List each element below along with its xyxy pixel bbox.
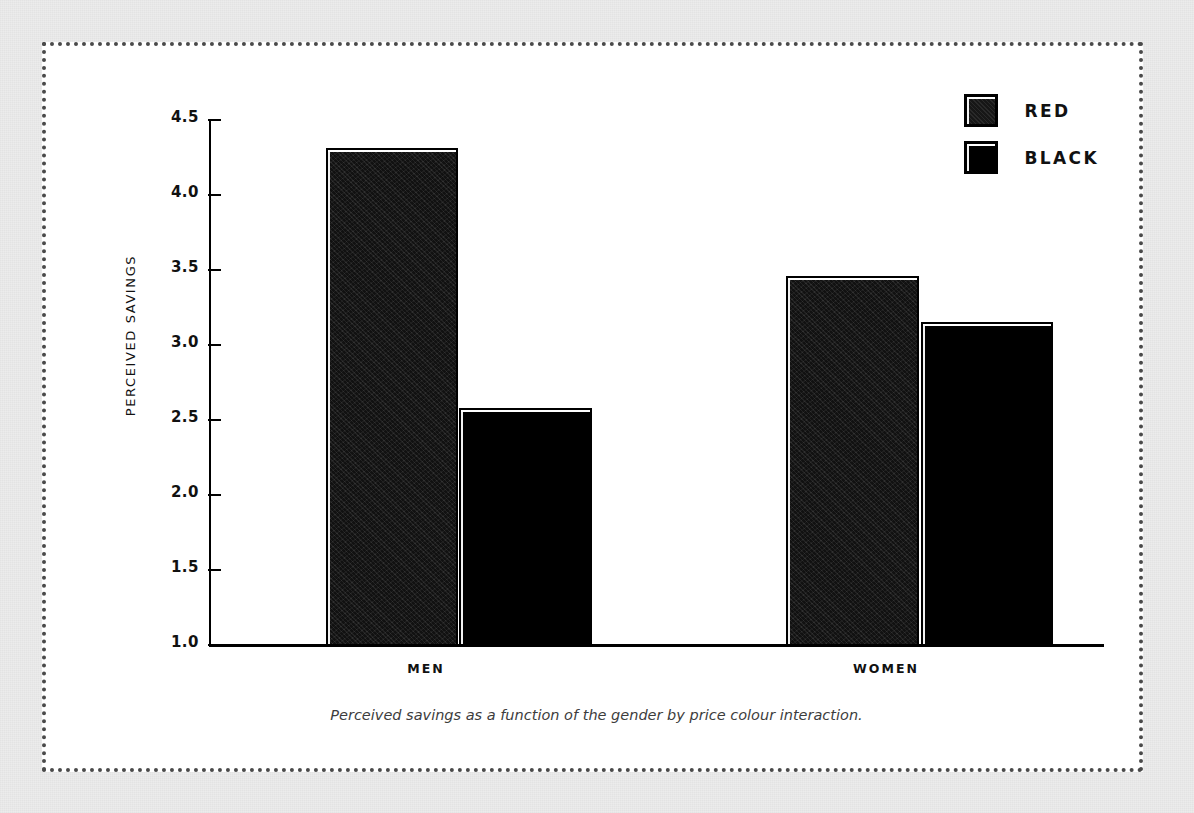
legend-label-red: RED xyxy=(1024,101,1070,121)
y-tick-label: 1.5 xyxy=(171,558,199,576)
legend-swatch-red-icon xyxy=(964,94,998,127)
bar-women-black[interactable] xyxy=(921,322,1053,646)
y-tick-label: 3.5 xyxy=(171,258,199,276)
y-tick-3-5: 3.5 xyxy=(46,269,221,271)
y-tick-1-0: 1.0 xyxy=(46,644,221,646)
y-tick-label: 1.0 xyxy=(171,633,199,651)
legend: RED BLACK xyxy=(964,94,1099,174)
bar-chart: PERCEIVED SAVINGS 4.5 4.0 3.5 3.0 2.5 2.… xyxy=(46,46,1147,776)
y-tick-1-5: 1.5 xyxy=(46,569,221,571)
x-tick-label-women: WOMEN xyxy=(786,661,986,676)
y-tick-label: 2.5 xyxy=(171,408,199,426)
y-tick-2-5: 2.5 xyxy=(46,419,221,421)
bar-men-black[interactable] xyxy=(459,408,592,646)
legend-entry-red[interactable]: RED xyxy=(964,94,1099,127)
y-tick-label: 4.5 xyxy=(171,108,199,126)
y-tick-4-0: 4.0 xyxy=(46,194,221,196)
y-tick-label: 4.0 xyxy=(171,183,199,201)
legend-label-black: BLACK xyxy=(1024,148,1099,168)
y-tick-4-5: 4.5 xyxy=(46,119,221,121)
figure-caption: Perceived savings as a function of the g… xyxy=(46,707,1147,723)
x-tick-label-men: MEN xyxy=(326,661,526,676)
legend-entry-black[interactable]: BLACK xyxy=(964,141,1099,174)
bar-women-red[interactable] xyxy=(786,276,919,646)
figure-frame: PERCEIVED SAVINGS 4.5 4.0 3.5 3.0 2.5 2.… xyxy=(42,42,1143,772)
y-tick-label: 2.0 xyxy=(171,483,199,501)
legend-swatch-black-icon xyxy=(964,141,998,174)
y-tick-2-0: 2.0 xyxy=(46,494,221,496)
y-axis-label: PERCEIVED SAVINGS xyxy=(123,226,138,446)
y-tick-label: 3.0 xyxy=(171,333,199,351)
plot-bars-container xyxy=(211,119,1104,646)
bar-men-red[interactable] xyxy=(326,148,458,646)
y-tick-3-0: 3.0 xyxy=(46,344,221,346)
